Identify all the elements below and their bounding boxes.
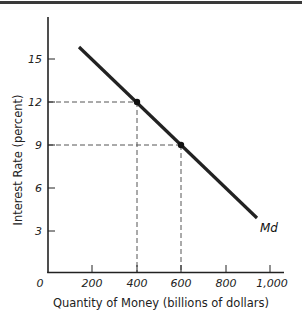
point-600-9 xyxy=(178,142,184,148)
x-tick-label-200: 200 xyxy=(82,277,103,290)
md-curve-label: Md xyxy=(260,221,278,235)
money-demand-curve xyxy=(79,47,257,218)
top-border xyxy=(0,1,302,4)
x-tick-label-400: 400 xyxy=(127,277,148,290)
y-tick-labels: 15 12 9 6 3 xyxy=(28,53,42,238)
y-tick-label-6: 6 xyxy=(35,182,42,195)
point-400-12 xyxy=(134,99,140,105)
money-demand-chart: 15 12 9 6 3 0 200 400 600 800 1,000 Quan… xyxy=(0,0,302,321)
y-tick-label-15: 15 xyxy=(28,53,42,66)
y-tick-label-3: 3 xyxy=(35,225,42,238)
y-ticks xyxy=(48,59,55,231)
x-tick-label-1000: 1,000 xyxy=(256,277,288,290)
x-ticks xyxy=(92,265,270,272)
x-axis-title: Quantity of Money (billions of dollars) xyxy=(53,296,269,310)
y-tick-label-9: 9 xyxy=(35,139,42,152)
x-tick-label-800: 800 xyxy=(216,277,237,290)
x-tick-labels: 0 200 400 600 800 1,000 xyxy=(37,277,288,290)
x-tick-label-0: 0 xyxy=(37,277,44,290)
y-axis-title: Interest Rate (percent) xyxy=(11,94,25,225)
y-tick-label-12: 12 xyxy=(28,96,42,109)
x-tick-label-600: 600 xyxy=(171,277,192,290)
